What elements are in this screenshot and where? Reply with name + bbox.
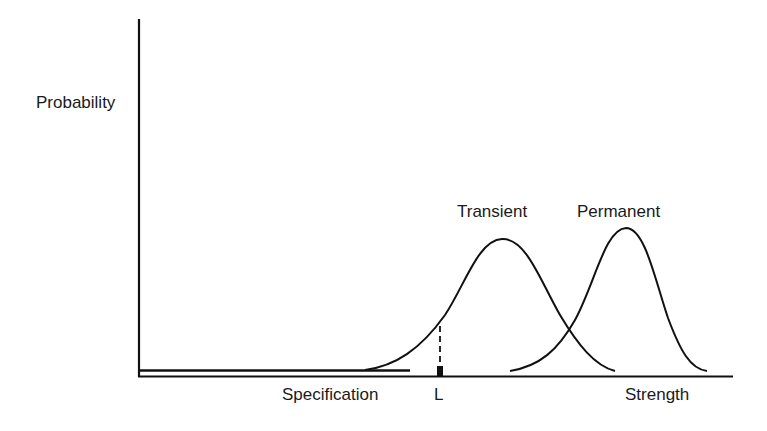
permanent-curve [510,228,707,371]
limit-label: L [434,386,443,403]
specification-label: Specification [282,386,378,403]
x-axis-label: Strength [625,386,689,403]
permanent-label: Permanent [577,203,660,220]
limit-marker [437,366,443,376]
transient-label: Transient [457,203,527,220]
transient-curve [365,239,615,371]
y-axis-label: Probability [36,94,115,111]
strength-distribution-diagram: Probability Transient Permanent Specific… [0,0,767,431]
